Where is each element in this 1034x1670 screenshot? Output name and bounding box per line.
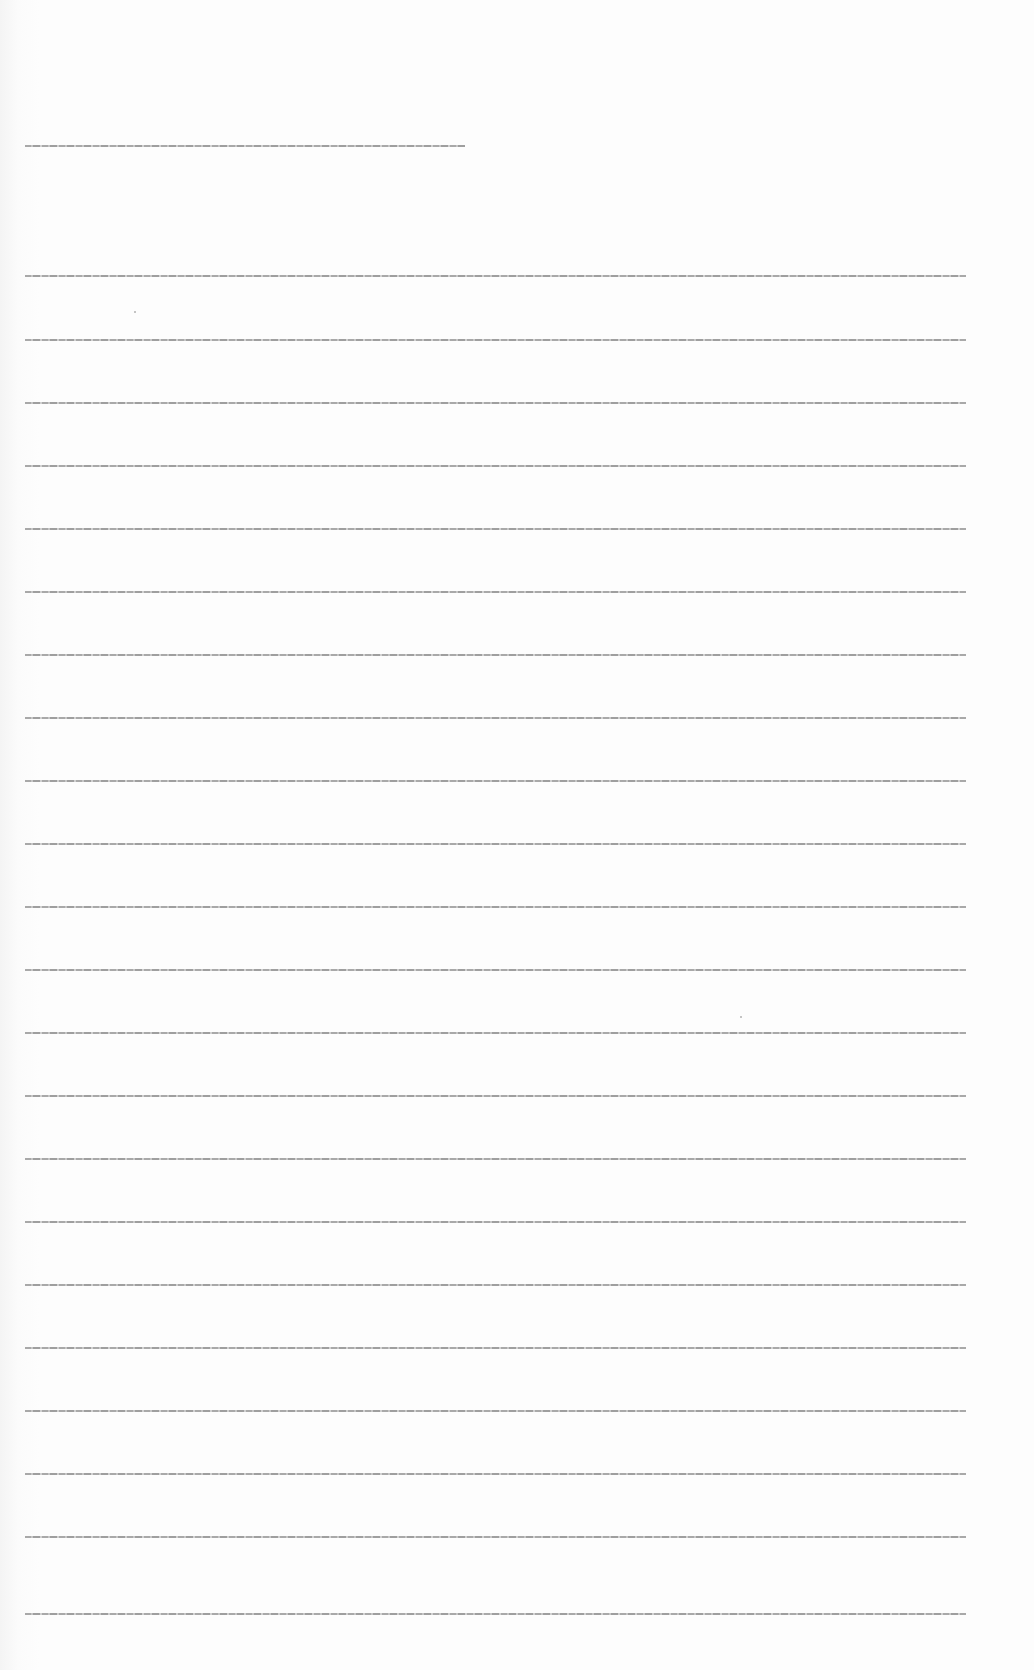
scan-speck xyxy=(740,1016,742,1018)
text-line: [illegible] xyxy=(25,780,966,782)
text-line: [illegible] xyxy=(25,528,966,530)
text-line: [illegible] xyxy=(25,1536,966,1538)
text-line: [illegible] xyxy=(25,843,966,845)
text-line: [illegible] xyxy=(25,465,966,467)
text-line: [illegible] xyxy=(25,1095,966,1097)
scan-speck xyxy=(134,311,136,313)
text-line: [illegible] xyxy=(25,1158,966,1160)
text-line: [illegible] xyxy=(25,906,966,908)
text-line: [illegible] xyxy=(25,1410,966,1412)
text-line: [illegible] xyxy=(25,654,966,656)
text-line: [illegible] xyxy=(25,1221,966,1223)
text-line: [illegible] xyxy=(25,402,966,404)
text-line: [illegible] xyxy=(25,591,966,593)
heading-text-line: [illegible] xyxy=(25,145,465,147)
text-line: [illegible] xyxy=(25,1347,966,1349)
text-line: [illegible] xyxy=(25,339,966,341)
text-line: [illegible] xyxy=(25,1284,966,1286)
scanned-page: [illegible] [illegible][illegible][illeg… xyxy=(0,0,1034,1670)
text-line: [illegible] xyxy=(25,275,966,277)
text-line: [illegible] xyxy=(25,1613,966,1615)
text-line: [illegible] xyxy=(25,717,966,719)
text-line: [illegible] xyxy=(25,1473,966,1475)
text-line: [illegible] xyxy=(25,969,966,971)
text-line: [illegible] xyxy=(25,1032,966,1034)
